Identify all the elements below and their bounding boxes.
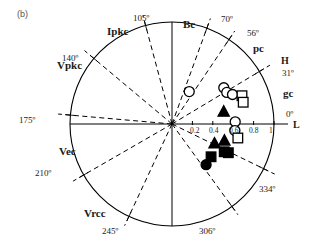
angle-label-31: 31º — [282, 69, 294, 78]
marker-open-circle-3 — [228, 89, 238, 99]
reference-ray-105 — [143, 16, 172, 124]
reference-ray-tick-56 — [226, 35, 232, 43]
sector-label-ipkc: Ipkc — [107, 26, 128, 37]
sector-label-vrcc: Vrcc — [84, 208, 106, 219]
reference-ray-tick-175 — [65, 115, 75, 116]
marker-open-square-1 — [238, 97, 248, 107]
angle-label-306: 306º — [199, 227, 215, 236]
sector-label-vec: Vec — [59, 146, 76, 157]
reference-ray-tick-334 — [259, 166, 268, 170]
angle-label-140: 140º — [62, 54, 78, 63]
marker-filled-triangle-0 — [218, 106, 229, 116]
reference-ray-tick-140 — [90, 55, 98, 62]
marker-filled-triangle-1 — [219, 135, 230, 145]
sector-label-gc: gc — [283, 88, 293, 99]
reference-ray-70 — [172, 19, 210, 124]
angular-axis-title-h: H — [281, 56, 289, 66]
angle-label-105: 105º — [133, 14, 149, 23]
reference-ray-tick-306 — [229, 202, 235, 210]
polar-plot-canvas — [0, 0, 316, 250]
angle-label-56: 56º — [247, 29, 259, 38]
radial-tick-0.8: 0.8 — [249, 127, 258, 135]
angle-label-70: 70º — [221, 15, 233, 24]
figure-panel: (b) Bc pc gc Ipkc Vpkc Vec Vrcc H L 105º… — [0, 0, 316, 250]
reference-ray-tick-31 — [255, 69, 264, 74]
radial-axis-title-l: L — [293, 120, 300, 130]
angle-label-245: 245º — [102, 227, 118, 236]
sector-label-bc: Bc — [183, 19, 195, 30]
radial-tick-0.2: 0.2 — [190, 127, 199, 135]
angle-label-0: 0º — [286, 110, 293, 119]
marker-filled-square-1 — [224, 148, 234, 158]
radial-tick-0.4: 0.4 — [209, 127, 218, 135]
marker-filled-circle-0 — [201, 160, 211, 170]
angle-label-334: 334º — [259, 185, 275, 194]
reference-ray-245 — [125, 124, 172, 226]
sector-label-pc: pc — [253, 43, 264, 54]
marker-open-circle-0 — [184, 87, 194, 97]
angle-label-210: 210º — [35, 169, 51, 178]
angle-label-175: 175º — [19, 116, 35, 125]
radial-tick-0.6: 0.6 — [229, 127, 238, 135]
reference-ray-tick-210 — [79, 172, 88, 177]
radial-tick-1: 1 — [269, 127, 273, 135]
reference-ray-tick-245 — [127, 212, 131, 221]
